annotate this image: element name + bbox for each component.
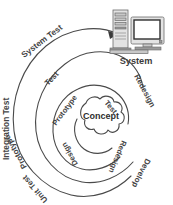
tower-bay-2 [115,18,126,21]
tower-bay-4 [115,27,126,29]
middle-ring-labels: Test Redesign Develop Unit Test Prototyp… [3,69,158,204]
concept-cloud: Concept [81,96,125,134]
label-design-inner: Design [59,141,79,168]
label-system-test: System Test [19,22,64,59]
system-label: System [120,56,153,66]
tower-bay-3 [115,23,126,26]
label-test-middle: Test [43,69,61,87]
label-redesign-middle: Redesign [132,73,157,109]
spiral-diagram-canvas: Concept System Test Integration Test Tes… [0,0,173,205]
tower-bay-1 [115,13,126,16]
label-unit-test-middle: Unit Test [20,173,49,205]
monitor-power-led [160,41,163,44]
computer-system-icon [110,10,164,54]
monitor-neck-icon [143,44,152,47]
keyboard-icon [110,50,148,54]
monitor-screen-icon [134,20,160,39]
monitor-stand-icon [135,47,161,50]
spiral-lifecycle-diagram: Concept System Test Integration Test Tes… [0,0,173,205]
